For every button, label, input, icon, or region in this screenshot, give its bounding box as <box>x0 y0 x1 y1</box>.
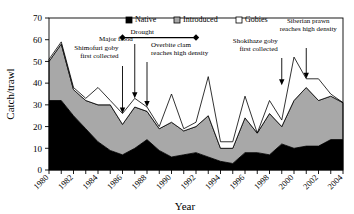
annotation-siberian-prawn-line: reaches high density <box>280 25 338 33</box>
y-tick-label: 60 <box>33 35 43 45</box>
legend-swatch-gobies <box>236 17 242 23</box>
y-tick-label: 50 <box>33 57 43 67</box>
x-tick-label: 1988 <box>129 172 148 191</box>
legend-swatch-introduced <box>174 17 180 23</box>
x-tick-label: 1984 <box>80 172 100 192</box>
annotation-major-flood-line: Major flood <box>99 35 133 43</box>
annotation-drought-label: Drought <box>131 28 154 36</box>
annotation-overbite-clam-line: reaches high density <box>151 49 209 57</box>
legend-label-introduced: Introduced <box>183 15 218 24</box>
y-tick-label: 30 <box>33 100 43 110</box>
x-tick-label: 2002 <box>301 172 320 191</box>
x-tick-label: 1990 <box>154 172 173 191</box>
y-axis-title: Catch/trawl <box>4 68 16 119</box>
y-axis-group: 010203040506070 <box>33 13 49 175</box>
annotation-shokihaze-line: first collected <box>239 45 278 53</box>
x-tick-label: 2000 <box>276 172 295 191</box>
x-axis-title: Year <box>175 200 196 212</box>
x-axis-group: 1980198219841986198819901992199419961998… <box>31 170 345 191</box>
x-tick-label: 1992 <box>178 172 197 191</box>
legend-swatch-native <box>126 17 132 23</box>
y-tick-label: 20 <box>33 122 43 132</box>
y-tick-label: 70 <box>33 13 43 23</box>
x-tick-label: 1994 <box>203 172 223 192</box>
legend-label-native: Native <box>135 15 157 24</box>
x-tick-label: 1980 <box>31 172 50 191</box>
x-tick-label: 1996 <box>227 172 246 191</box>
annotation-shimofuri-line: first collected <box>80 52 119 60</box>
x-tick-label: 2004 <box>325 172 345 192</box>
x-tick-label: 1998 <box>252 172 271 191</box>
y-tick-label: 40 <box>33 78 43 88</box>
chart-figure: 010203040506070 198019821984198619881990… <box>0 0 354 214</box>
chart-legend: NativeIntroducedGobies <box>126 15 268 24</box>
y-tick-label: 10 <box>33 144 43 154</box>
x-tick-label: 1982 <box>56 172 75 191</box>
x-tick-label: 1986 <box>105 172 124 191</box>
legend-label-gobies: Gobies <box>245 15 268 24</box>
catch-per-trawl-area-chart: 010203040506070 198019821984198619881990… <box>0 0 354 214</box>
